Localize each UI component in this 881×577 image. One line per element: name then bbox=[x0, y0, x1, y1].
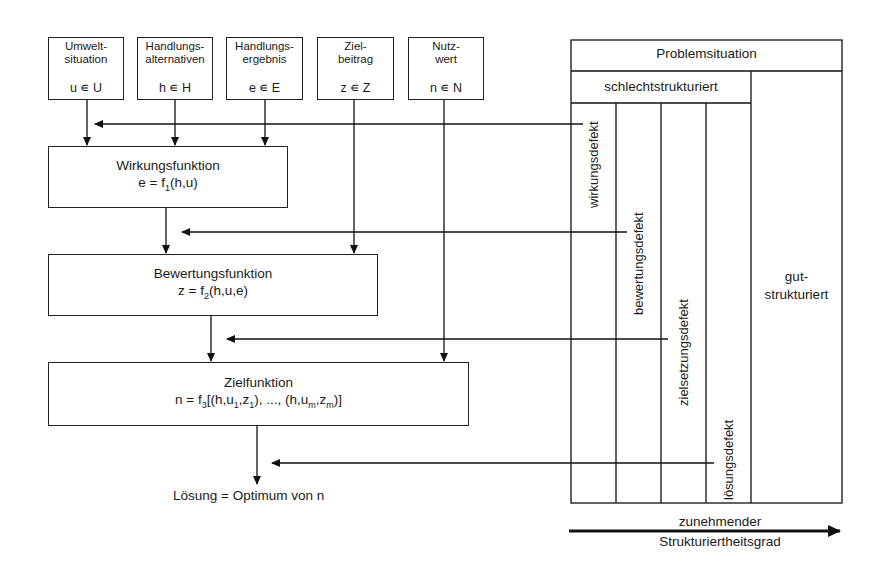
input-variable: z ∊ Z bbox=[318, 82, 393, 95]
table-header-schlechtstrukturiert: schlechtstrukturiert bbox=[571, 79, 751, 94]
input-title: wert bbox=[435, 53, 457, 65]
defect-label-zielsetzungsdefekt: zielsetzungsdefekt bbox=[676, 299, 691, 406]
function-name: Wirkungsfunktion bbox=[49, 157, 287, 174]
function-formula: e = f1(h,u) bbox=[49, 174, 287, 197]
function-formula: z = f2(h,u,e) bbox=[49, 282, 377, 305]
input-box-nutzwert: Nutz-wert n ∊ N bbox=[408, 37, 484, 100]
wirkungsfunktion-box: Wirkungsfunktion e = f1(h,u) bbox=[48, 146, 288, 208]
defect-label-loesungsdefekt: lösungsdefekt bbox=[721, 420, 736, 500]
input-title: Handlungs- bbox=[235, 40, 294, 52]
solution-label: Lösung = Optimum von n bbox=[173, 488, 324, 503]
input-title: alternativen bbox=[145, 53, 204, 65]
defect-label-wirkungsdefekt: wirkungsdefekt bbox=[586, 121, 601, 208]
function-name: Bewertungsfunktion bbox=[49, 265, 377, 282]
input-title: Umwelt- bbox=[65, 40, 107, 52]
input-title: Ziel- bbox=[344, 40, 366, 52]
function-name: Zielfunktion bbox=[49, 374, 468, 391]
table-header-problemsituation: Problemsituation bbox=[571, 46, 842, 61]
input-variable: e ∊ E bbox=[227, 82, 302, 95]
input-box-zielbeitrag: Ziel-beitrag z ∊ Z bbox=[317, 37, 394, 100]
input-box-handlungsergebnis: Handlungs-ergebnis e ∊ E bbox=[226, 37, 303, 100]
input-variable: h ∊ H bbox=[138, 82, 212, 95]
input-title: beitrag bbox=[338, 53, 373, 65]
input-title: Handlungs- bbox=[146, 40, 205, 52]
input-title: Nutz- bbox=[432, 40, 459, 52]
zielfunktion-box: Zielfunktion n = f3[(h,u1,z1), ..., (h,u… bbox=[48, 362, 469, 426]
table-label-gutstrukturiert: gut-strukturiert bbox=[751, 268, 842, 304]
input-variable: u ∊ U bbox=[49, 82, 123, 95]
input-title: ergebnis bbox=[242, 53, 286, 65]
input-title: situation bbox=[65, 53, 108, 65]
bewertungsfunktion-box: Bewertungsfunktion z = f2(h,u,e) bbox=[48, 254, 378, 316]
input-box-handlungsalternativen: Handlungs-alternativen h ∊ H bbox=[137, 37, 213, 100]
axis-label-zunehmender: zunehmender bbox=[600, 514, 840, 529]
input-variable: n ∊ N bbox=[409, 82, 483, 95]
defect-label-bewertungsdefekt: bewertungsdefekt bbox=[631, 212, 646, 315]
function-formula: n = f3[(h,u1,z1), ..., (h,um,zm)] bbox=[49, 391, 468, 414]
input-box-umweltsituation: Umwelt-situation u ∊ U bbox=[48, 37, 124, 100]
axis-label-strukturiertheitsgrad: Strukturiertheitsgrad bbox=[600, 534, 840, 549]
